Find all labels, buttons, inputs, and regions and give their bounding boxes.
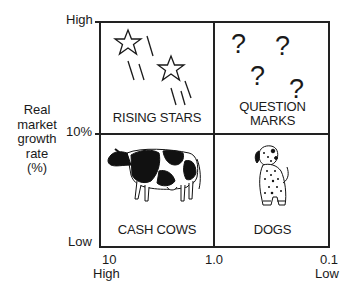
y-axis-label: Real market growth rate (%) (8, 103, 66, 176)
x-axis-end-high: High (93, 267, 120, 281)
quadrant-label-dogs: DOGS (215, 223, 330, 237)
x-tick-10: 10 (102, 253, 116, 267)
y-axis-label-line: growth (8, 132, 66, 147)
star-icon (101, 23, 213, 113)
quadrant-label-line: MARKS (215, 114, 330, 128)
y-tick-10pct: 10% (66, 125, 92, 139)
quadrant-dogs: DOGS (215, 135, 330, 247)
y-axis-label-line: rate (8, 147, 66, 162)
quadrant-rising-stars: RISING STARS (101, 23, 213, 133)
quadrant-label-question-marks: QUESTION MARKS (215, 100, 330, 128)
quadrant-label-cash-cows: CASH COWS (101, 223, 213, 237)
question-mark-icon: ? (250, 63, 265, 90)
y-tick-high: High (66, 13, 93, 27)
x-tick-1: 1.0 (205, 253, 223, 267)
x-axis-end-low: Low (315, 267, 339, 281)
y-axis-label-line: market (8, 118, 66, 133)
quadrant-cash-cows: CASH COWS (101, 135, 213, 247)
cow-icon (101, 135, 213, 215)
y-axis-label-line: Real (8, 103, 66, 118)
x-tick-0-1: 0.1 (320, 253, 338, 267)
dog-icon (215, 135, 330, 215)
y-tick-low: Low (68, 235, 92, 249)
y-axis-label-line: (%) (8, 161, 66, 176)
quadrant-label-rising-stars: RISING STARS (101, 111, 213, 125)
quadrant-label-line: QUESTION (215, 100, 330, 114)
quadrant-question-marks: ? ? ? ? QUESTION MARKS (215, 23, 330, 133)
question-mark-icon: ? (231, 31, 246, 58)
question-mark-icon: ? (275, 33, 290, 60)
